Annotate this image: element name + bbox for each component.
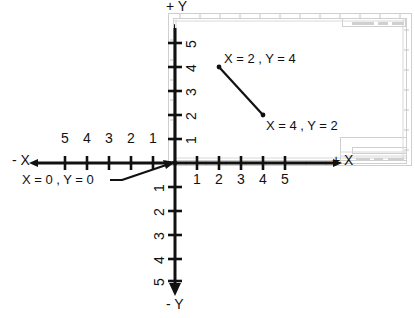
x-tick-label-pos-1: 1 [193, 171, 201, 187]
x-tick-label-neg-4: 4 [83, 130, 91, 146]
data-point-0-0 [173, 161, 178, 166]
y-tick-label-pos-4: 4 [183, 64, 199, 72]
y-tick-label-pos-3: 3 [183, 88, 199, 96]
point-label-0-0: X = 0 , Y = 0 [22, 172, 94, 187]
x-tick-label-neg-2: 2 [127, 130, 135, 146]
coordinate-plane-diagram: + Y - Y - X + X 1 2 3 4 5 1 2 3 4 5 1 2 … [0, 0, 415, 318]
data-segment [219, 67, 263, 115]
point-label-4-2: X = 4 , Y = 2 [266, 118, 338, 133]
y-tick-label-pos-5: 5 [183, 40, 199, 48]
x-tick-label-pos-5: 5 [281, 171, 289, 187]
y-tick-label-pos-1: 1 [183, 136, 199, 144]
y-tick-label-pos-2: 2 [183, 112, 199, 120]
x-tick-label-neg-5: 5 [61, 130, 69, 146]
y-tick-label-neg-1: 1 [151, 184, 167, 192]
x-tick-label-pos-2: 2 [215, 171, 223, 187]
axis-label-y-negative: - Y [166, 296, 184, 312]
axis-label-y-positive: + Y [166, 0, 187, 14]
y-tick-label-neg-3: 3 [151, 232, 167, 240]
y-tick-label-neg-2: 2 [151, 208, 167, 216]
y-tick-label-neg-5: 5 [151, 278, 167, 286]
axis-label-x-positive: + X [332, 152, 353, 168]
x-tick-label-neg-1: 1 [149, 130, 157, 146]
point-label-2-4: X = 2 , Y = 4 [224, 51, 296, 66]
x-tick-label-neg-3: 3 [105, 130, 113, 146]
axis-label-x-negative: - X [12, 152, 30, 168]
y-tick-label-neg-4: 4 [151, 256, 167, 264]
data-point-4-2 [261, 113, 266, 118]
data-point-2-4 [217, 65, 222, 70]
x-tick-label-pos-3: 3 [237, 171, 245, 187]
x-tick-label-pos-4: 4 [259, 171, 267, 187]
